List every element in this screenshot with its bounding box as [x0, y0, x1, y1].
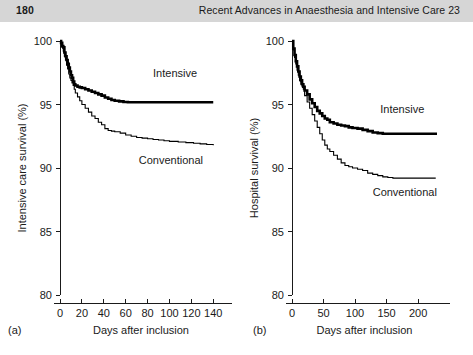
series-label-conventional: Conventional: [139, 154, 203, 166]
x-axis-title: Days after inclusion: [93, 324, 189, 336]
x-tick-label: 20: [76, 307, 88, 319]
x-tick-label: 80: [141, 307, 153, 319]
survival-chart-a: 80859095100Intensive care survival (%)02…: [0, 22, 245, 355]
x-tick-label: 0: [289, 307, 295, 319]
y-tick-label: 90: [272, 162, 284, 174]
series-label-intensive: Intensive: [153, 67, 197, 79]
survival-curve-conventional: [60, 41, 213, 145]
figure-panel-b: 80859095100Hospital survival (%)05010015…: [245, 22, 473, 355]
page-number: 180: [16, 4, 34, 16]
x-tick-label: 200: [409, 307, 427, 319]
survival-curve-intensive: [292, 41, 437, 134]
y-axis-title: Intensive care survival (%): [16, 104, 28, 233]
series-label-intensive: Intensive: [380, 103, 424, 115]
y-tick-label: 90: [40, 162, 52, 174]
x-tick-label: 100: [346, 307, 364, 319]
x-tick-label: 0: [57, 307, 63, 319]
x-tick-label: 100: [160, 307, 178, 319]
page-header-band: 180 Recent Advances in Anaesthesia and I…: [0, 0, 473, 22]
y-tick-label: 85: [40, 226, 52, 238]
running-head-title: Recent Advances in Anaesthesia and Inten…: [199, 4, 460, 16]
y-tick-label: 95: [272, 99, 284, 111]
x-tick-label: 40: [98, 307, 110, 319]
series-label-conventional: Conventional: [373, 186, 437, 198]
x-tick-label: 140: [204, 307, 222, 319]
survival-chart-b: 80859095100Hospital survival (%)05010015…: [245, 22, 473, 355]
x-axis-title: Days after inclusion: [317, 324, 413, 336]
panel-letter: (b): [253, 324, 266, 336]
y-tick-label: 95: [40, 99, 52, 111]
x-tick-label: 60: [120, 307, 132, 319]
y-tick-label: 100: [34, 35, 52, 47]
y-tick-label: 100: [266, 35, 284, 47]
page-header-content: 180 Recent Advances in Anaesthesia and I…: [0, 0, 473, 22]
x-tick-label: 120: [182, 307, 200, 319]
x-tick-label: 150: [377, 307, 395, 319]
figure-panel-a: 80859095100Intensive care survival (%)02…: [0, 22, 245, 355]
y-tick-label: 85: [272, 226, 284, 238]
y-axis-title: Hospital survival (%): [248, 118, 260, 218]
x-tick-label: 50: [317, 307, 329, 319]
y-tick-label: 80: [40, 289, 52, 301]
y-tick-label: 80: [272, 289, 284, 301]
panel-letter: (a): [8, 324, 21, 336]
